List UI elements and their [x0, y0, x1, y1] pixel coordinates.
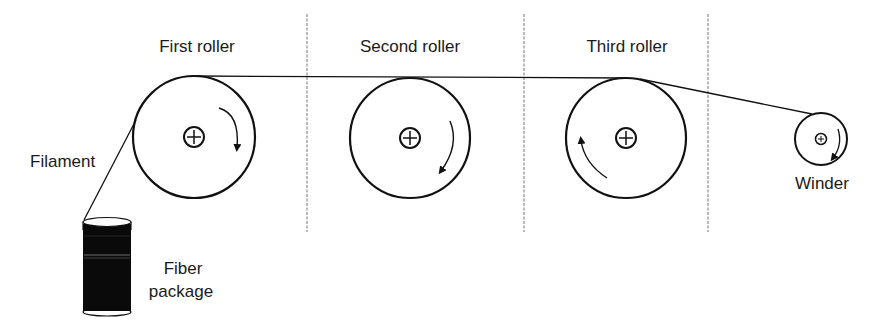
second-roller [350, 78, 470, 198]
third-roller-label: Third roller [586, 38, 667, 55]
axle-icon [184, 127, 204, 147]
fiber-package [83, 218, 131, 317]
fiber-package-label-line2: package [149, 283, 213, 300]
second-roller-label: Second roller [360, 38, 460, 55]
rotation-arrow-icon [581, 140, 607, 178]
rotation-arrow-icon [219, 108, 237, 148]
axle-icon [400, 128, 420, 148]
third-roller [566, 78, 686, 198]
winder [795, 113, 847, 165]
axle-icon [816, 134, 827, 145]
axle-icon [616, 128, 636, 148]
rotation-arrow-icon [833, 129, 840, 158]
winder-label: Winder [795, 175, 849, 192]
first-roller [133, 76, 255, 198]
first-roller-label: First roller [159, 38, 235, 55]
filament-label: Filament [30, 153, 95, 170]
fiber-package-label-line1: Fiber [164, 260, 203, 277]
rotation-arrow-icon [441, 121, 453, 171]
